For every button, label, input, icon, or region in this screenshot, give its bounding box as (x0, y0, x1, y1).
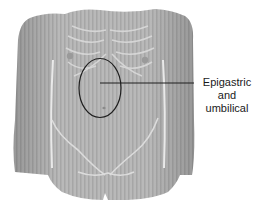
callout-line-3: umbilical (196, 102, 258, 115)
callout-line-1: Epigastric (196, 76, 258, 89)
torso-body (14, 9, 195, 200)
umbilicus (102, 107, 105, 109)
callout-line-2: and (196, 89, 258, 102)
callout-label: Epigastric and umbilical (196, 76, 258, 115)
